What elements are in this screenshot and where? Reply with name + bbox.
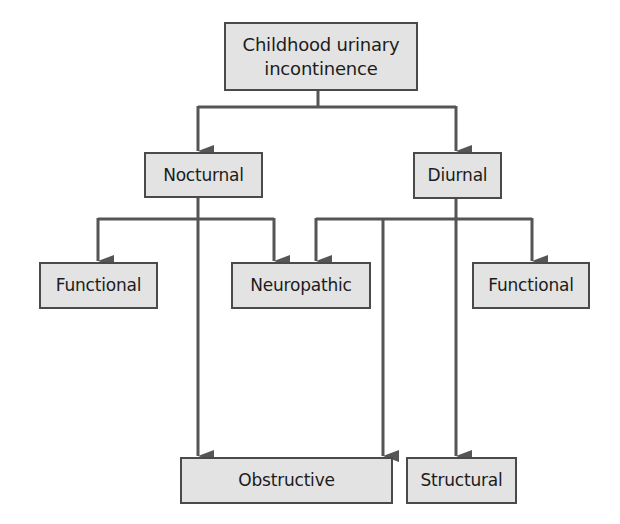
node-diurnal-label: Diurnal [428,164,488,186]
node-childhood-urinary-incontinence: Childhood urinary incontinence [224,22,418,91]
node-diurnal: Diurnal [413,152,502,199]
node-root-label-line1: Childhood urinary [243,33,400,56]
node-functional-diurnal: Functional [472,262,590,309]
node-obstructive: Obstructive [180,457,393,504]
node-neuropathic-label: Neuropathic [250,274,352,296]
node-functional-left-label: Functional [56,274,141,296]
node-structural-label: Structural [420,469,502,491]
node-root-label-line2: incontinence [243,57,400,80]
node-nocturnal-label: Nocturnal [163,164,244,186]
node-functional-right-label: Functional [488,274,573,296]
node-structural: Structural [406,457,517,504]
node-functional-nocturnal: Functional [39,262,158,309]
node-neuropathic: Neuropathic [231,262,371,309]
node-obstructive-label: Obstructive [238,469,335,491]
node-nocturnal: Nocturnal [144,152,263,198]
diagram-canvas: Childhood urinary incontinence Nocturnal… [0,0,620,524]
